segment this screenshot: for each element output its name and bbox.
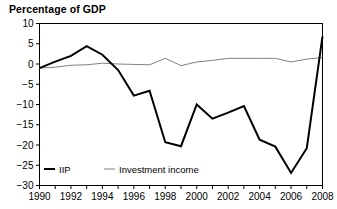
data-series-group <box>40 36 323 172</box>
legend-label-iip: IIP <box>59 164 71 175</box>
series-line-iip <box>40 36 323 172</box>
x-axis-tick-label: 2004 <box>248 191 271 202</box>
x-axis-tick-label: 1994 <box>91 191 114 202</box>
chart-figure: Percentage of GDP 1050−5−10−15−20−25−30 … <box>0 0 337 209</box>
line-chart-plot: 1050−5−10−15−20−25−30 199019921994199619… <box>0 0 337 209</box>
x-axis-tick-label: 1996 <box>123 191 146 202</box>
x-axis-tick-label: 1998 <box>154 191 177 202</box>
axes-group <box>40 24 323 186</box>
y-axis-tick-label: −10 <box>17 99 34 110</box>
y-axis-tick-label: 5 <box>28 38 34 49</box>
x-axis-tick-label: 1992 <box>60 191 83 202</box>
y-axis-tick-label: −15 <box>17 119 34 130</box>
series-line-investment-income <box>40 58 323 69</box>
x-axis-tick-label: 2002 <box>217 191 240 202</box>
x-axis-tick-label: 2008 <box>311 191 334 202</box>
x-axis-tick-label: 2000 <box>186 191 209 202</box>
legend-label-investment-income: Investment income <box>119 164 199 175</box>
x-axis-tick-label: 2006 <box>280 191 303 202</box>
chart-legend: IIPInvestment income <box>44 164 199 175</box>
y-axis-tick-label: 0 <box>28 59 34 70</box>
y-axis-tick-label: −20 <box>17 140 34 151</box>
x-axis-ticks: 1990199219941996199820002002200420062008 <box>28 186 334 203</box>
y-axis-tick-label: −30 <box>17 180 34 191</box>
x-axis-tick-label: 1990 <box>28 191 51 202</box>
y-axis-ticks: 1050−5−10−15−20−25−30 <box>17 18 40 191</box>
y-axis-tick-label: 10 <box>22 18 34 29</box>
y-axis-tick-label: −25 <box>17 160 34 171</box>
y-axis-tick-label: −5 <box>22 79 34 90</box>
